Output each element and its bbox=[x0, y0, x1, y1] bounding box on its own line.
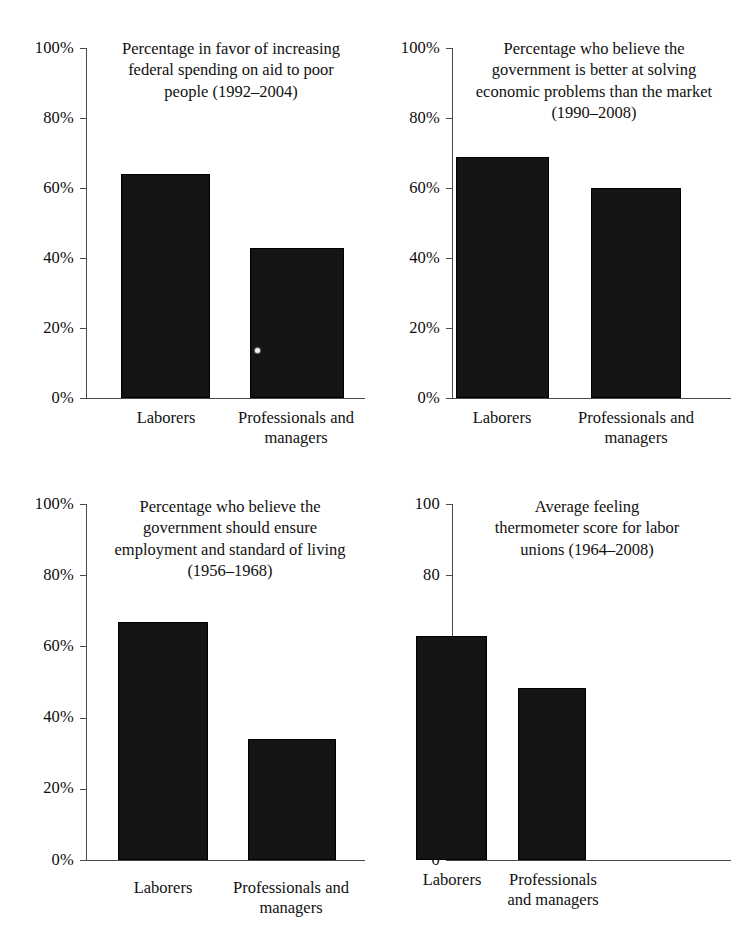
y-tick-mark bbox=[80, 188, 87, 189]
y-tick-label: 60% bbox=[4, 638, 74, 655]
x-axis-line bbox=[446, 860, 731, 861]
y-tick-label: 0% bbox=[4, 390, 74, 407]
y-tick-label: 20% bbox=[370, 320, 440, 337]
chart-title-line: unions (1964–2008) bbox=[462, 539, 712, 560]
x-category-line: and managers bbox=[491, 890, 615, 910]
y-tick-label: 100% bbox=[4, 496, 74, 513]
chart-title: Percentage in favor of increasing federa… bbox=[100, 38, 362, 102]
chart-title-line: thermometer score for labor bbox=[462, 517, 712, 538]
chart-panel-union-feeling-thermometer: Average feeling thermometer score for la… bbox=[366, 470, 731, 940]
bar-professionals-and-managers bbox=[518, 688, 586, 860]
x-axis-line bbox=[80, 860, 365, 861]
y-tick-mark bbox=[80, 575, 87, 576]
y-tick-label: 20% bbox=[4, 320, 74, 337]
y-tick-mark bbox=[80, 718, 87, 719]
x-axis-line bbox=[80, 398, 365, 399]
chart-title-line: Percentage in favor of increasing bbox=[100, 38, 362, 59]
chart-title-line: employment and standard of living bbox=[96, 539, 364, 560]
x-category-label-professionals: Professionals and managers bbox=[225, 408, 367, 448]
y-tick-label: 100% bbox=[370, 40, 440, 57]
chart-title-line: government is better at solving bbox=[458, 59, 730, 80]
y-axis-line bbox=[86, 48, 87, 398]
y-tick-mark bbox=[80, 328, 87, 329]
bar-laborers bbox=[118, 622, 208, 861]
y-tick-label: 20% bbox=[4, 780, 74, 797]
x-category-line: Laborers bbox=[103, 878, 223, 898]
y-tick-mark bbox=[80, 258, 87, 259]
x-category-line: Professionals and bbox=[225, 408, 367, 428]
y-tick-label: 60% bbox=[370, 180, 440, 197]
bar-laborers bbox=[121, 174, 210, 398]
x-category-line: Laborers bbox=[106, 408, 226, 428]
bar-professionals-and-managers bbox=[591, 188, 681, 398]
y-tick-label: 100% bbox=[4, 40, 74, 57]
y-tick-mark bbox=[80, 646, 87, 647]
chart-title: Percentage who believe the government sh… bbox=[96, 496, 364, 582]
chart-title-line: federal spending on aid to poor bbox=[100, 59, 362, 80]
y-tick-mark bbox=[446, 258, 453, 259]
x-category-label-professionals: Professionals and managers bbox=[565, 408, 707, 448]
x-axis-line bbox=[446, 398, 731, 399]
x-category-line: Professionals bbox=[491, 870, 615, 890]
chart-panel-employment-standard-of-living: Percentage who believe the government sh… bbox=[0, 470, 365, 940]
x-category-label-laborers: Laborers bbox=[106, 408, 226, 428]
y-tick-mark bbox=[80, 48, 87, 49]
y-tick-label: 60% bbox=[4, 180, 74, 197]
chart-panel-government-vs-market: Percentage who believe the government is… bbox=[366, 0, 731, 470]
x-category-line: managers bbox=[220, 898, 362, 918]
x-category-line: Laborers bbox=[442, 408, 562, 428]
x-category-label-laborers: Laborers bbox=[402, 870, 502, 890]
bar-laborers bbox=[416, 636, 487, 860]
chart-title-line: (1956–1968) bbox=[96, 560, 364, 581]
y-tick-mark bbox=[446, 575, 453, 576]
x-category-label-professionals: Professionals and managers bbox=[491, 870, 615, 910]
y-tick-label: 40% bbox=[4, 250, 74, 267]
chart-title-line: (1990–2008) bbox=[458, 102, 730, 123]
y-tick-mark bbox=[446, 504, 453, 505]
chart-panel-aid-to-poor: Percentage in favor of increasing federa… bbox=[0, 0, 365, 470]
y-axis-line bbox=[86, 504, 87, 860]
x-category-line: managers bbox=[565, 428, 707, 448]
x-category-line: Laborers bbox=[402, 870, 502, 890]
chart-title: Percentage who believe the government is… bbox=[458, 38, 730, 124]
chart-title-line: Average feeling bbox=[462, 496, 712, 517]
y-tick-label: 0% bbox=[370, 390, 440, 407]
y-tick-label: 100 bbox=[370, 496, 440, 513]
y-tick-mark bbox=[80, 789, 87, 790]
y-tick-label: 80% bbox=[4, 110, 74, 127]
y-tick-mark bbox=[446, 328, 453, 329]
x-category-line: managers bbox=[225, 428, 367, 448]
y-tick-label: 0% bbox=[4, 852, 74, 869]
x-category-label-laborers: Laborers bbox=[442, 408, 562, 428]
y-tick-mark bbox=[80, 118, 87, 119]
y-tick-mark bbox=[446, 188, 453, 189]
y-tick-label: 40% bbox=[370, 250, 440, 267]
bar-laborers bbox=[456, 157, 549, 399]
white-speck-artifact bbox=[255, 348, 260, 353]
y-tick-label: 80 bbox=[370, 567, 440, 584]
x-category-label-professionals: Professionals and managers bbox=[220, 878, 362, 918]
y-tick-label: 40% bbox=[4, 709, 74, 726]
y-axis-line bbox=[452, 48, 453, 398]
y-tick-mark bbox=[446, 118, 453, 119]
bar-professionals-and-managers bbox=[248, 739, 336, 860]
y-tick-label: 80% bbox=[4, 567, 74, 584]
y-tick-mark bbox=[446, 48, 453, 49]
bar-chart-figure: Percentage in favor of increasing federa… bbox=[0, 0, 731, 941]
bar-professionals-and-managers bbox=[250, 248, 344, 399]
chart-title-line: people (1992–2004) bbox=[100, 81, 362, 102]
x-category-label-laborers: Laborers bbox=[103, 878, 223, 898]
y-tick-mark bbox=[80, 504, 87, 505]
chart-title: Average feeling thermometer score for la… bbox=[462, 496, 712, 560]
x-category-line: Professionals and bbox=[220, 878, 362, 898]
y-tick-label: 80% bbox=[370, 110, 440, 127]
chart-title-line: economic problems than the market bbox=[458, 81, 730, 102]
chart-title-line: Percentage who believe the bbox=[458, 38, 730, 59]
chart-title-line: Percentage who believe the bbox=[96, 496, 364, 517]
x-category-line: Professionals and bbox=[565, 408, 707, 428]
chart-title-line: government should ensure bbox=[96, 517, 364, 538]
